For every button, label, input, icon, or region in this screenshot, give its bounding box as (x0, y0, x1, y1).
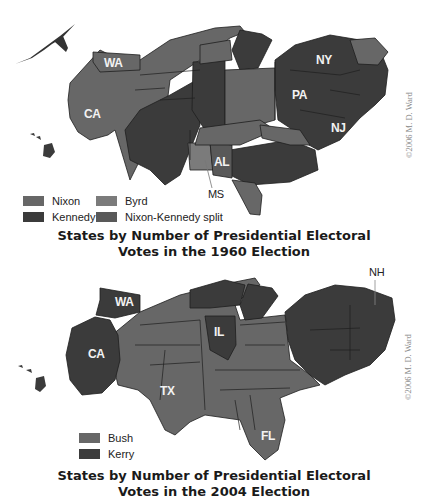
label-wa: WA (115, 295, 134, 309)
caption-2004-line2: Votes in the 2004 Election (0, 484, 428, 500)
label-fl: FL (261, 429, 275, 443)
legend-label-byrd: Byrd (125, 195, 148, 207)
label-ca: CA (84, 107, 101, 121)
legend-item-kennedy: Kennedy (23, 211, 95, 223)
copyright-2004: ©2006 M. D. Ward (403, 334, 413, 400)
legend-item-kerry: Kerry (79, 448, 134, 460)
swatch-kerry (79, 449, 100, 459)
swatch-bush (79, 433, 100, 443)
state-mi (240, 284, 278, 320)
label-ms: MS (208, 188, 224, 200)
label-il: IL (214, 325, 224, 339)
south-kennedy (230, 140, 318, 185)
swatch-nixon (23, 196, 44, 206)
label-wa: WA (104, 56, 123, 70)
legend-item-split: Nixon-Kennedy split (96, 211, 223, 223)
legend-label-split: Nixon-Kennedy split (125, 211, 223, 223)
swatch-split (96, 212, 117, 222)
swatch-byrd (96, 196, 117, 206)
label-nh: NH (369, 266, 384, 278)
hawaii-shape (30, 133, 55, 158)
state-fl (232, 180, 262, 215)
legend-item-bush: Bush (79, 432, 133, 444)
map-1960-panel: WA CA NY PA NJ AL MS Nixon Byrd Kennedy … (0, 0, 428, 250)
swatch-kennedy (23, 212, 44, 222)
label-pa: PA (292, 88, 307, 102)
legend-item-byrd: Byrd (96, 195, 148, 207)
state-mi (232, 30, 272, 70)
alaska-shape (15, 24, 75, 64)
copyright-1960: ©2006 M. D. Ward (404, 92, 414, 158)
hawaii-shape (18, 365, 46, 392)
cartogram-2004 (0, 250, 428, 500)
map-2004-panel: WA CA IL TX FL NH Bush Kerry ©2006 M. D.… (0, 250, 428, 500)
label-nj: NJ (331, 121, 346, 135)
ohio-indiana (225, 68, 275, 130)
label-ca: CA (88, 347, 105, 361)
caption-2004: States by Number of Presidential Elector… (0, 468, 428, 500)
caption-1960-line1: States by Number of Presidential Elector… (0, 228, 428, 244)
legend-label-kennedy: Kennedy (52, 211, 95, 223)
legend-item-nixon: Nixon (23, 195, 80, 207)
caption-2004-line1: States by Number of Presidential Elector… (0, 468, 428, 484)
legend-label-nixon: Nixon (52, 195, 80, 207)
label-tx: TX (160, 384, 175, 398)
label-ny: NY (316, 53, 332, 67)
upper-midwest-kerry (190, 280, 245, 308)
label-al: AL (214, 155, 229, 169)
state-ms (188, 143, 213, 170)
legend-label-bush: Bush (108, 432, 133, 444)
legend-label-kerry: Kerry (108, 448, 134, 460)
